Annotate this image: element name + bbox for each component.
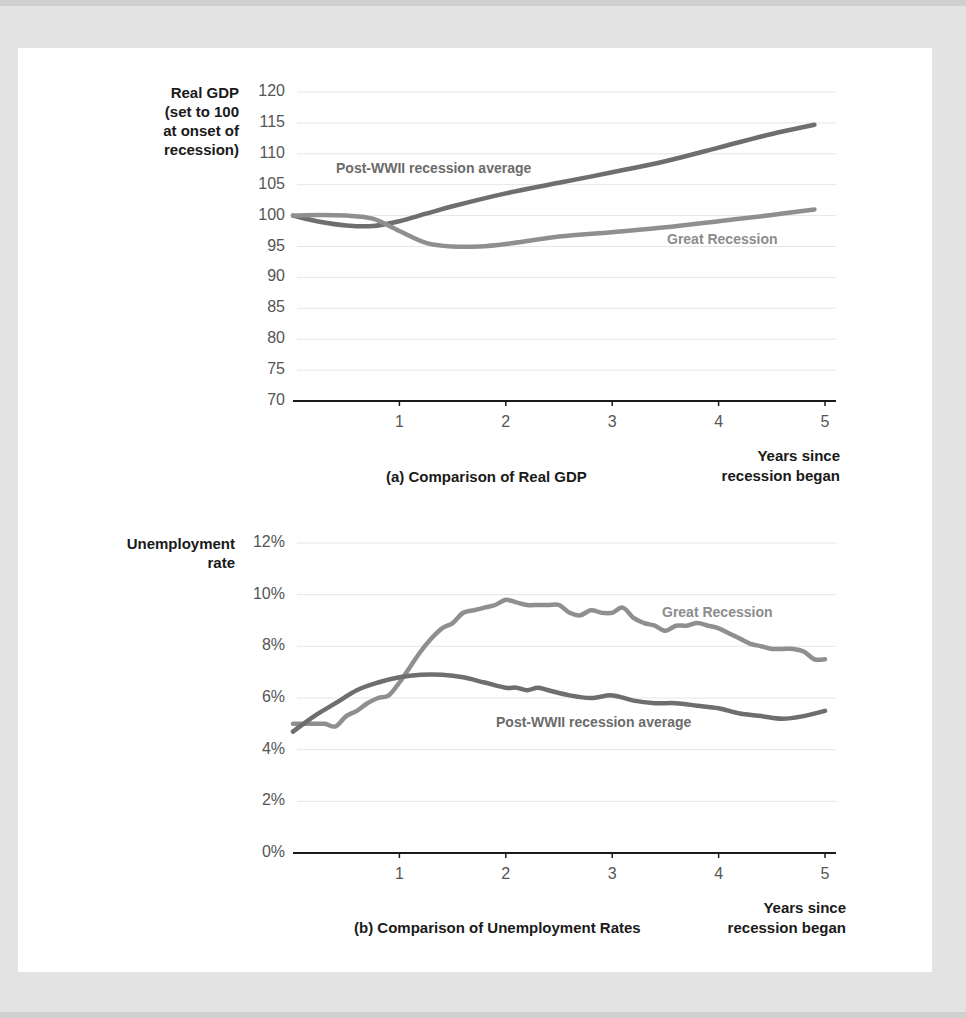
y-tick-label: 75 <box>225 360 285 378</box>
chart-a-ylabel-line: Real GDP <box>120 83 239 102</box>
x-tick-label: 4 <box>709 413 729 431</box>
chart-a-xlabel-line: recession began <box>640 466 840 486</box>
chart-a-title: (a) Comparison of Real GDP <box>386 468 587 485</box>
y-tick-label: 85 <box>225 298 285 316</box>
chart-a-postwwii-label: Post-WWII recession average <box>336 160 531 176</box>
chart-b-title: (b) Comparison of Unemployment Rates <box>354 919 641 936</box>
chart-a-ylabel-line: at onset of <box>120 121 239 140</box>
x-tick-label: 5 <box>815 865 835 883</box>
y-tick-label: 105 <box>225 175 285 193</box>
y-tick-label: 10% <box>225 585 285 603</box>
chart-a-ylabel-line: (set to 100 <box>120 102 239 121</box>
chart-a-xlabel-line: Years since <box>640 446 840 466</box>
y-tick-label: 0% <box>225 843 285 861</box>
y-tick-label: 95 <box>225 237 285 255</box>
chart-b-ylabel-line: Unemployment <box>100 534 235 553</box>
x-tick-label: 2 <box>496 413 516 431</box>
x-tick-label: 3 <box>602 865 622 883</box>
y-tick-label: 90 <box>225 267 285 285</box>
chart-b-great-recession-label: Great Recession <box>662 604 773 620</box>
x-tick-label: 2 <box>496 865 516 883</box>
x-tick-label: 1 <box>389 413 409 431</box>
y-tick-label: 70 <box>225 391 285 409</box>
x-tick-label: 4 <box>709 865 729 883</box>
chart-b-xlabel: Years since recession began <box>646 898 846 938</box>
chart-b-xlabel-line: recession began <box>646 918 846 938</box>
chart-a-xlabel: Years since recession began <box>640 446 840 486</box>
y-tick-label: 120 <box>225 82 285 100</box>
y-tick-label: 110 <box>225 144 285 162</box>
y-tick-label: 8% <box>225 636 285 654</box>
chart-a-great-recession-label: Great Recession <box>667 231 778 247</box>
y-tick-label: 80 <box>225 329 285 347</box>
chart-a-ylabel-line: recession) <box>120 140 239 159</box>
chart-b-xlabel-line: Years since <box>646 898 846 918</box>
y-tick-label: 12% <box>225 533 285 551</box>
y-tick-label: 4% <box>225 740 285 758</box>
y-tick-label: 100 <box>225 206 285 224</box>
chart-b-ylabel: Unemployment rate <box>100 534 235 572</box>
x-tick-label: 5 <box>815 413 835 431</box>
y-tick-label: 2% <box>225 791 285 809</box>
chart-b-ylabel-line: rate <box>100 553 235 572</box>
x-tick-label: 3 <box>602 413 622 431</box>
chart-b-postwwii-label: Post-WWII recession average <box>496 714 691 730</box>
x-tick-label: 1 <box>389 865 409 883</box>
y-tick-label: 115 <box>225 113 285 131</box>
chart-a-ylabel: Real GDP (set to 100 at onset of recessi… <box>120 83 239 159</box>
y-tick-label: 6% <box>225 688 285 706</box>
